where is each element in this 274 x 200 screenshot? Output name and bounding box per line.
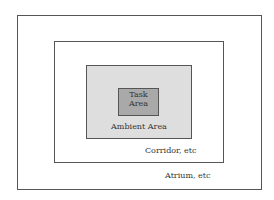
- corridor-label: Corridor, etc: [145, 146, 197, 155]
- ambient-area-label: Ambient Area: [86, 122, 192, 131]
- task-area-label-line2: Area: [118, 99, 159, 108]
- task-area-label-line1: Task: [118, 90, 159, 99]
- task-area-label: Task Area: [118, 90, 159, 108]
- atrium-label: Atrium, etc: [165, 171, 211, 180]
